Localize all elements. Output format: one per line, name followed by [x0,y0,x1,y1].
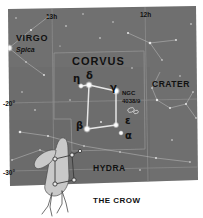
label-dec-minus20: -20° [3,100,15,107]
label-hydra: HYDRA [93,163,126,173]
figure-caption: THE CROW [93,196,141,205]
label-ngc-line1: NGC [122,90,136,96]
sky-chart-svg: VIRGO Spica CRATER HYDRA CORVUS 13h 12h … [0,0,203,218]
label-spica: Spica [16,46,35,54]
label-ngc-line2: 4038/9 [122,98,141,104]
label-star-alpha: α [125,130,132,141]
label-ra-13h: 13h [46,13,57,20]
label-dec-minus30: -30° [3,169,15,176]
label-star-beta: β [76,120,83,131]
star-chart-figure: VIRGO Spica CRATER HYDRA CORVUS 13h 12h … [0,0,203,218]
label-ra-12h: 12h [140,11,151,18]
label-corvus-title: CORVUS [72,55,125,67]
star-spica [5,44,13,52]
label-virgo: VIRGO [16,33,48,43]
star-alpha [118,130,124,136]
label-star-eta: η [73,73,80,84]
label-star-gamma: γ [110,82,117,93]
star-epsilon [113,122,120,129]
label-star-delta: δ [86,70,93,81]
label-star-epsilon: ε [125,115,131,126]
star-delta [85,81,93,89]
star-beta [83,125,91,133]
label-crater: CRATER [152,79,190,89]
